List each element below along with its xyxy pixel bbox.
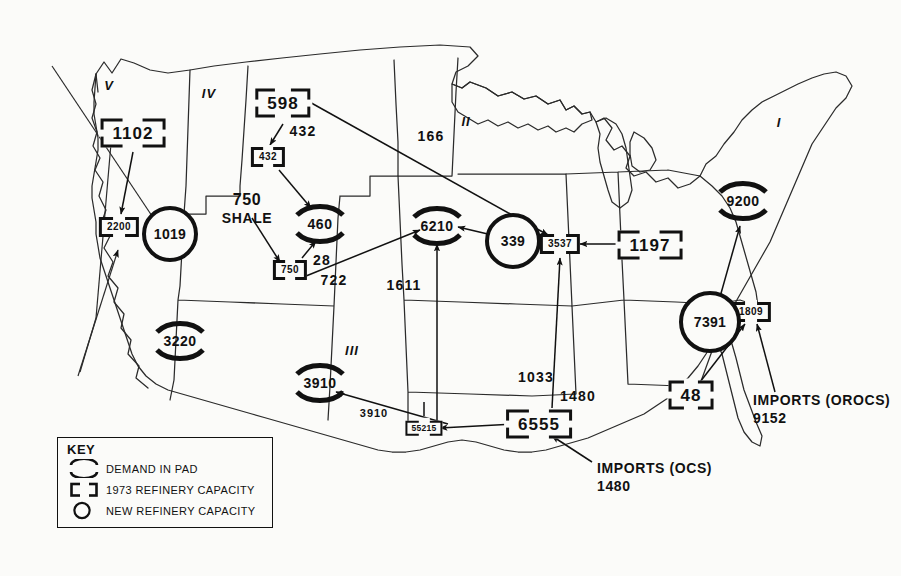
new-refinery-capacity-339: 339 [485,213,541,269]
refinery-value: 3537 [548,238,572,249]
refinery-capacity-3537: 3537 [540,234,580,254]
refinery-box: 1197 [618,231,683,260]
broken-circle-icon [67,459,101,478]
refinery-capacity-55215: 55215 [405,421,442,436]
demand-in-pad-9200: 9200 [712,178,774,224]
pacific-lower-crossing [80,318,96,372]
demand-value: 6210 [419,219,454,233]
shale-annotation: 750 SHALE [222,190,272,228]
great-lakes-outline [452,82,592,132]
arrow-orocs-to-1809 [757,324,775,392]
demand-value: 9200 [725,194,760,208]
imports-orocs-label: IMPORTS (OROCS) [753,392,890,410]
refinery-box: 55215 [405,421,442,436]
demand-in-pad-6210: 6210 [406,203,468,249]
solid-circle-icon [67,501,101,520]
refinery-box: 3537 [540,234,580,254]
map-canvas: V IV II I III 460 6210 3220 3910 [0,0,901,576]
refinery-box: 598 [255,89,310,118]
key-row-refinery-1973: 1973 REFINERY CAPACITY [67,479,272,500]
refinery-value: 55215 [411,423,436,433]
refinery-capacity-598: 598 [255,89,310,118]
flow-label-28: 28 [313,252,331,268]
new-refinery-value: 339 [501,233,525,249]
demand-value: 3910 [302,376,337,390]
refinery-box: 6555 [506,410,572,439]
refinery-value: 750 [281,264,299,275]
flow-label-166: 166 [418,128,445,144]
key-label-new-refinery: NEW REFINERY CAPACITY [106,505,256,517]
key-label-demand: DEMAND IN PAD [106,463,198,475]
refinery-value: 432 [259,151,277,162]
flow-label-3910: 3910 [360,407,388,419]
region-label-v: V [104,78,114,93]
florida-outline [716,334,762,446]
refinery-capacity-432: 432 [251,147,285,167]
flow-label-1611: 1611 [386,277,421,293]
region-label-iii: III [345,343,359,358]
arrow-ocs-to-6555 [552,436,592,462]
refinery-value: 1102 [113,124,154,143]
refinery-capacity-750: 750 [273,260,307,280]
refinery-value: 1197 [630,236,671,255]
imports-ocs-value: 1480 [597,478,712,496]
imports-ocs-annotation: IMPORTS (OCS) 1480 [597,460,712,495]
west-interior-borders [96,60,398,420]
key-row-new-refinery: NEW REFINERY CAPACITY [67,500,272,521]
flow-label-1033: 1033 [518,369,554,385]
refinery-value: 48 [681,386,702,405]
refinery-value: 2200 [107,221,131,232]
imports-orocs-annotation: IMPORTS (OROCS) 9152 [753,392,890,427]
refinery-box: 432 [251,147,285,167]
demand-in-pad-460: 460 [289,201,351,247]
new-refinery-value: 7391 [694,314,726,330]
arrow-598-to-432 [270,124,283,145]
key-label-refinery-1973: 1973 REFINERY CAPACITY [106,484,255,496]
demand-value: 460 [307,217,334,231]
imports-orocs-value: 9152 [753,410,890,428]
arrow-1102-to-2200 [121,152,133,214]
refinery-capacity-6555: 6555 [506,410,572,439]
flow-label-432: 432 [290,123,317,139]
shale-annotation-line2: SHALE [222,210,272,228]
demand-value: 3220 [162,334,197,348]
refinery-box: 48 [669,381,714,410]
refinery-capacity-48: 48 [669,381,714,410]
refinery-box: 1102 [101,119,166,148]
refinery-box: 2200 [99,217,139,237]
new-refinery-capacity-7391: 7391 [679,291,741,353]
region-label-i: I [777,115,782,130]
flow-label-722: 722 [321,272,348,288]
map-key-legend: KEY DEMAND IN PAD 1973 REFINERY CAPACITY [57,437,273,528]
arrow-6555-to-3537 [552,258,560,408]
region-label-iv: IV [202,86,216,101]
region-label-ii: II [461,114,470,129]
key-title: KEY [67,442,272,457]
map-outline-group [92,45,852,452]
refinery-value: 1809 [739,306,763,317]
flow-label-1480: 1480 [560,388,596,404]
refinery-value: 598 [267,94,298,113]
refinery-capacity-2200: 2200 [99,217,139,237]
refinery-capacity-1102: 1102 [101,119,166,148]
new-refinery-value: 1019 [154,226,186,242]
shale-annotation-line1: 750 [222,190,272,210]
imports-ocs-label: IMPORTS (OCS) [597,460,712,478]
east-interior-borders [566,170,716,386]
us-national-outline [92,45,852,452]
key-row-demand: DEMAND IN PAD [67,458,272,479]
demand-in-pad-3220: 3220 [149,318,211,364]
refinery-box: 750 [273,260,307,280]
arrow-55215-to-3910 [336,392,448,424]
new-refinery-capacity-1019: 1019 [142,206,198,262]
broken-rect-icon [67,480,101,499]
demand-in-pad-3910: 3910 [289,360,351,406]
lake-huron-erie [630,132,656,172]
refinery-capacity-1197: 1197 [618,231,683,260]
lake-michigan [596,118,632,208]
refinery-value: 6555 [518,415,560,434]
